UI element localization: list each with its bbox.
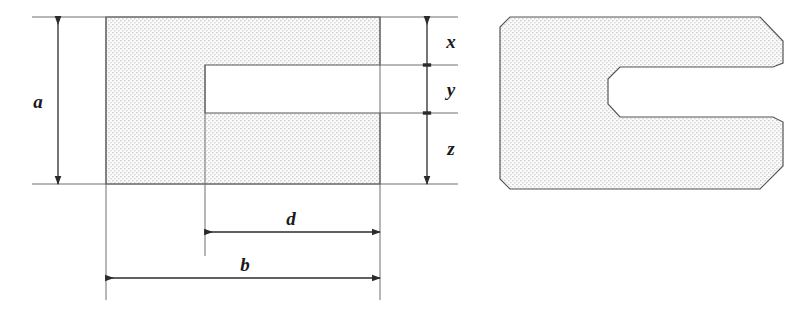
dimension-d-label: d	[286, 208, 296, 229]
dimension-a-label: a	[33, 91, 43, 112]
dimension-b-label: b	[240, 254, 250, 275]
dimension-z: z	[427, 113, 455, 184]
figure-canvas: a x y z d	[0, 0, 806, 326]
dimension-y: y	[427, 65, 456, 113]
dimension-a: a	[33, 17, 58, 184]
dimension-x-label: x	[445, 31, 456, 52]
dimension-b: b	[106, 254, 380, 278]
left-view-body-outline	[106, 17, 380, 184]
dimension-z-label: z	[446, 138, 455, 159]
right-view-group	[500, 17, 783, 189]
dimension-y-label: y	[445, 79, 456, 100]
technical-drawing-svg: a x y z d	[0, 0, 806, 326]
dimension-d: d	[205, 208, 380, 232]
left-view-group: a x y z d	[32, 17, 458, 300]
dimension-x: x	[427, 17, 456, 65]
right-view-shim-outline	[500, 17, 783, 189]
